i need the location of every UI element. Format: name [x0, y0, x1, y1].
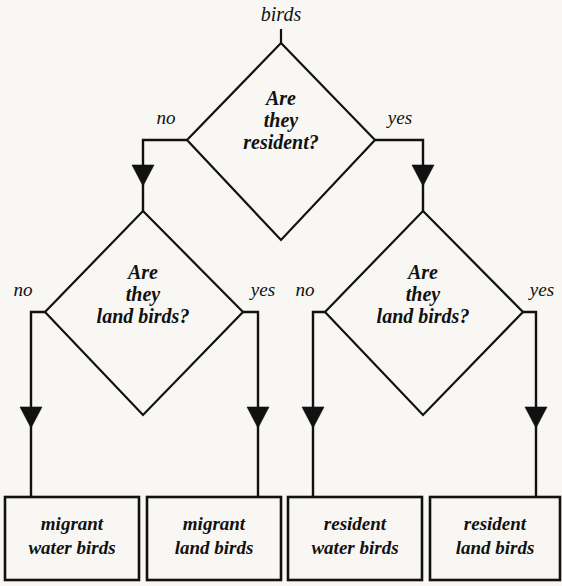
outcome-resident-water-line1: resident: [324, 513, 387, 534]
decision-land-left-line1: Are: [126, 261, 158, 283]
arrowhead-land-left-no: [20, 407, 42, 428]
outcome-resident-land-line2: land birds: [456, 537, 535, 558]
edge-land-left-no: [31, 312, 45, 497]
decision-land-left-line2: they: [126, 283, 161, 306]
edge-resident-no: [143, 140, 187, 211]
arrowhead-resident-yes: [412, 165, 434, 186]
decision-land-left-line3: land birds?: [97, 305, 190, 327]
outcome-migrant-land-line2: land birds: [175, 537, 254, 558]
outcome-migrant-land-line1: migrant: [183, 513, 246, 534]
arrowhead-land-right-no: [302, 407, 324, 428]
root-label: birds: [261, 3, 302, 25]
edge-land-left-yes: [243, 312, 258, 497]
outcome-resident-land-line1: resident: [464, 513, 527, 534]
edge-resident-yes: [375, 140, 423, 211]
decision-tree-diagram: birds Are they resident? no yes Are they…: [0, 0, 562, 586]
edge-land-right-no: [313, 312, 325, 497]
decision-land-right-line3: land birds?: [377, 305, 470, 327]
decision-resident-line1: Are: [264, 87, 296, 109]
edge-label-resident-yes: yes: [386, 107, 412, 128]
flowchart-canvas: birds Are they resident? no yes Are they…: [0, 0, 562, 586]
edge-label-land-right-yes: yes: [528, 279, 554, 300]
decision-resident-line3: resident?: [243, 131, 319, 153]
arrowhead-resident-no: [132, 165, 154, 186]
arrowhead-land-left-yes: [247, 407, 269, 428]
decision-land-right-line2: they: [406, 283, 441, 306]
outcome-resident-water-line2: water birds: [311, 537, 398, 558]
outcome-migrant-water-line2: water birds: [28, 537, 115, 558]
decision-resident-line2: they: [264, 109, 299, 132]
edge-label-land-left-yes: yes: [249, 279, 275, 300]
arrowhead-land-right-yes: [525, 407, 547, 428]
edge-label-resident-no: no: [157, 107, 176, 128]
edge-land-right-yes: [523, 312, 536, 497]
edge-label-land-right-no: no: [296, 279, 315, 300]
edge-label-land-left-no: no: [14, 279, 33, 300]
outcome-migrant-water-line1: migrant: [41, 513, 104, 534]
decision-land-right-line1: Are: [406, 261, 438, 283]
